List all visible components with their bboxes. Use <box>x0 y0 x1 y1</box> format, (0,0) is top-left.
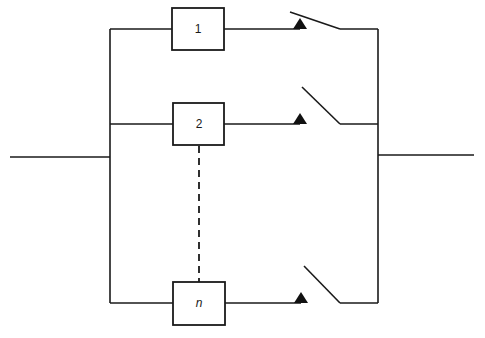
switch-contact-2-icon <box>293 113 307 124</box>
switch-lever-n <box>304 266 340 303</box>
branch-1 <box>110 8 378 50</box>
unit-label-1: 1 <box>172 22 224 36</box>
unit-label-n: n <box>173 296 225 310</box>
unit-label-2: 2 <box>173 117 225 131</box>
branch-n <box>110 266 378 325</box>
branch-2 <box>110 87 378 145</box>
switch-contact-n-icon <box>294 292 308 303</box>
redundancy-diagram <box>0 0 485 338</box>
switch-contact-1-icon <box>293 18 307 29</box>
switch-lever-2 <box>302 87 340 124</box>
